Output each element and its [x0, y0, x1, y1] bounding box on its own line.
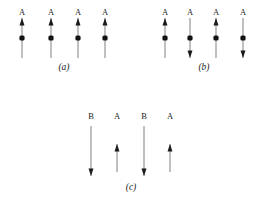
arrow-head [89, 169, 94, 177]
arrow-head [163, 18, 168, 26]
site-label-a: A [98, 8, 112, 17]
site-label-a: A [209, 8, 223, 17]
panel-b [162, 18, 245, 58]
panel-a [19, 18, 107, 58]
site-label-a: A [110, 112, 124, 121]
arrow-head [214, 18, 219, 26]
site-label-a: A [163, 112, 177, 121]
lattice-site-dot [240, 35, 245, 40]
lattice-site-dot [187, 35, 192, 40]
panel-c [89, 126, 173, 176]
arrow-head [188, 51, 193, 59]
arrow-head [168, 144, 173, 152]
panel-caption: (b) [189, 62, 219, 72]
lattice-site-dot [213, 35, 218, 40]
arrow-head [103, 18, 108, 26]
site-label-a: A [15, 8, 29, 17]
arrow-head [115, 144, 120, 152]
site-label-a: A [71, 8, 85, 17]
arrow-head [142, 169, 147, 177]
lattice-site-dot [102, 35, 107, 40]
arrow-head [20, 18, 25, 26]
lattice-site-dot [48, 35, 53, 40]
site-label-a: A [183, 8, 197, 17]
arrow-head [76, 18, 81, 26]
spin-arrangement-figure: AAAA(a)AAAA(b)BABA(c) [0, 0, 262, 210]
panel-caption: (a) [49, 62, 79, 72]
lattice-site-dot [162, 35, 167, 40]
panel-caption: (c) [116, 182, 146, 192]
arrow-head [49, 18, 54, 26]
lattice-site-dot [75, 35, 80, 40]
site-label-b: B [84, 112, 98, 121]
lattice-site-dot [19, 35, 24, 40]
site-label-a: A [44, 8, 58, 17]
site-label-b: B [137, 112, 151, 121]
site-label-a: A [158, 8, 172, 17]
site-label-a: A [236, 8, 250, 17]
arrows-layer [0, 0, 262, 210]
arrow-head [241, 51, 246, 59]
